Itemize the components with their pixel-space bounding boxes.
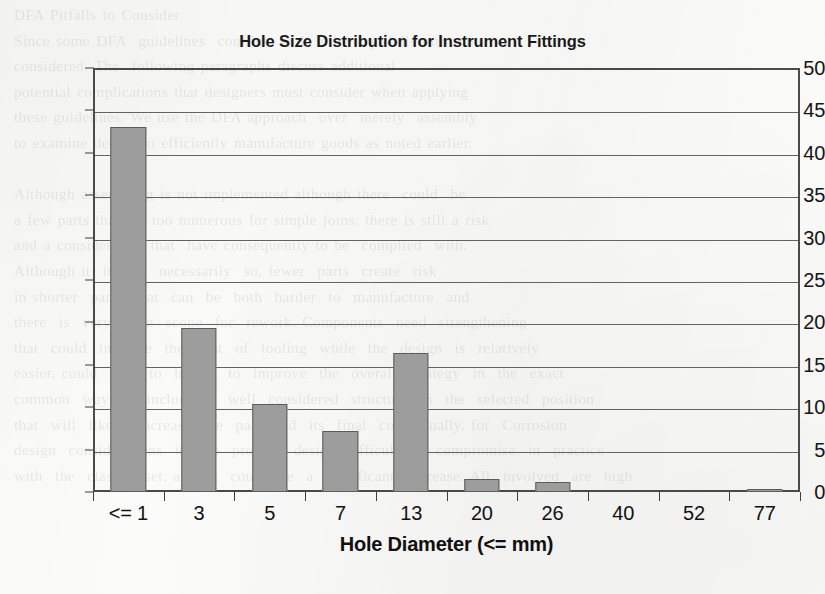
bar-slot	[517, 68, 588, 492]
x-axis-tick-label: <= 1	[109, 502, 148, 525]
y-axis-title: Percentage	[8, 0, 42, 102]
bar-slot	[659, 68, 730, 492]
x-axis-tick-label: 7	[335, 502, 346, 525]
bar-slot	[305, 68, 376, 492]
x-axis-tick-mark	[234, 492, 235, 501]
x-axis-tick-mark	[729, 492, 730, 501]
x-axis-tick-label: 5	[264, 502, 275, 525]
bar-slot	[447, 68, 518, 492]
x-axis-tick-mark	[659, 492, 660, 501]
bar	[252, 404, 287, 492]
x-axis-tick-label: 3	[194, 502, 205, 525]
x-axis-tick-mark	[447, 492, 448, 501]
bar-slot	[729, 68, 800, 492]
x-axis-title: Hole Diameter (<= mm)	[93, 533, 800, 556]
bar	[464, 479, 499, 492]
bar	[323, 431, 358, 492]
bar	[111, 127, 146, 492]
bar-slot	[376, 68, 447, 492]
x-axis-tick-label: 26	[542, 502, 564, 525]
x-axis-tick-mark	[305, 492, 306, 501]
bar	[747, 489, 782, 492]
bar	[535, 482, 570, 492]
x-axis-tick-mark	[376, 492, 377, 501]
bar-slot	[234, 68, 305, 492]
bar-slot	[93, 68, 164, 492]
x-axis-tick-label: 13	[400, 502, 422, 525]
x-axis-tick-label: 77	[754, 502, 776, 525]
bar	[181, 328, 216, 493]
chart-title: Hole Size Distribution for Instrument Fi…	[0, 32, 825, 51]
bar-series	[93, 68, 800, 492]
x-axis-tick-label: 20	[471, 502, 493, 525]
bar	[393, 353, 428, 492]
x-axis-tick-mark	[517, 492, 518, 501]
scanned-page: DFA Pitfalls to Consider Since some DFA …	[0, 0, 825, 594]
x-axis-tick-mark	[93, 492, 94, 501]
x-axis-tick-mark	[588, 492, 589, 501]
x-axis-tick-label: 40	[612, 502, 634, 525]
bar-slot	[164, 68, 235, 492]
bar-slot	[588, 68, 659, 492]
x-axis-tick-mark	[800, 492, 801, 501]
x-axis-tick-label: 52	[683, 502, 705, 525]
x-axis-tick-mark	[164, 492, 165, 501]
